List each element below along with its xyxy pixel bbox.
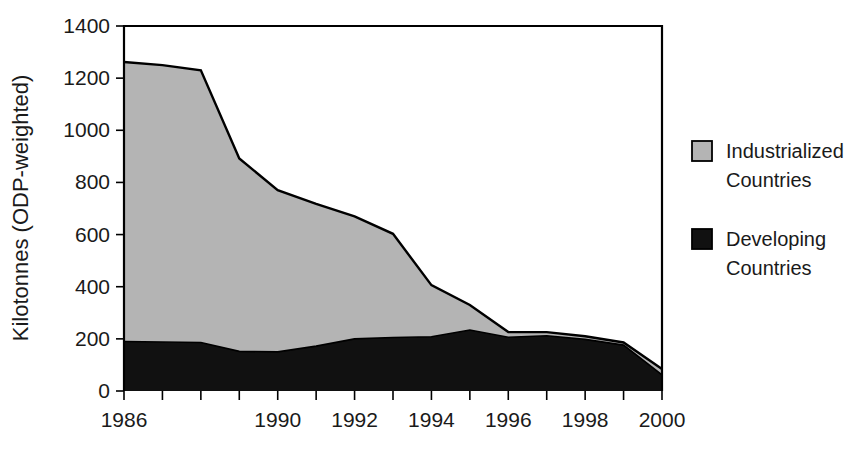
x-tick-label: 1996 [485,408,532,431]
x-tick-label: 1994 [408,408,455,431]
y-tick-label: 800 [75,170,110,193]
y-tick-label: 400 [75,275,110,298]
x-tick-label: 1992 [331,408,378,431]
legend-label-line2: Countries [726,169,812,191]
legend-swatch [692,229,712,249]
legend-label-line1: Industrialized [726,140,844,162]
y-axis-title: Kilotonnes (ODP-weighted) [8,75,33,342]
y-tick-label: 200 [75,327,110,350]
chart-container: 0200400600800100012001400 19861990199219… [0,0,856,456]
x-tick-label: 1998 [562,408,609,431]
x-tick-label: 2000 [639,408,686,431]
x-tick-label: 1990 [254,408,301,431]
y-tick-label: 0 [98,379,110,402]
legend-label-line1: Developing [726,228,826,250]
y-tick-label: 1400 [63,14,110,37]
y-tick-label: 600 [75,223,110,246]
y-tick-label: 1000 [63,118,110,141]
x-tick-label: 1986 [101,408,148,431]
legend-label-line2: Countries [726,257,812,279]
stacked-area-chart: 0200400600800100012001400 19861990199219… [0,0,856,456]
legend-swatch [692,141,712,161]
y-tick-label: 1200 [63,66,110,89]
